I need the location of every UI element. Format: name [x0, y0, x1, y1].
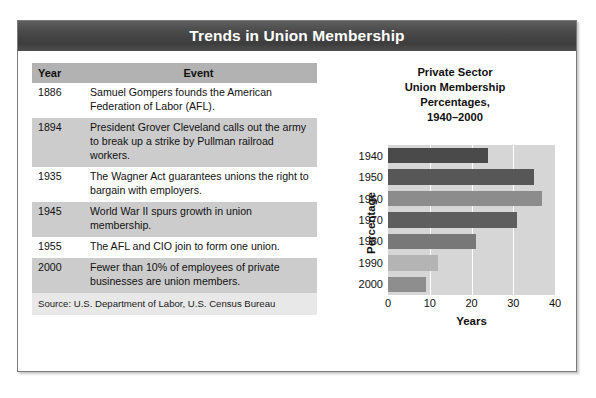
cell-year: 1935 — [32, 167, 84, 202]
bar-slot — [388, 188, 555, 209]
y-tick-label: 1980 — [350, 231, 386, 252]
chart-title-line: Percentages, — [336, 95, 574, 110]
y-tick-label: 1990 — [350, 252, 386, 273]
plot-area — [388, 145, 555, 295]
bar-slot — [388, 166, 555, 187]
chart-title-line: 1940–2000 — [336, 110, 574, 125]
chart-title: Private Sector Union Membership Percenta… — [336, 59, 574, 125]
bar-slot — [388, 274, 555, 295]
figure-body: Year Event 1886 Samuel Gompers founds th… — [18, 51, 576, 371]
table-header-row: Year Event — [32, 63, 317, 83]
cell-year: 1886 — [32, 83, 84, 118]
table-body: 1886 Samuel Gompers founds the American … — [32, 83, 317, 315]
y-tick-label: 1960 — [350, 188, 386, 209]
table-row: 1955 The AFL and CIO join to form one un… — [32, 237, 317, 258]
bar-series — [388, 145, 555, 295]
bar-2000 — [388, 277, 426, 292]
cell-event: The AFL and CIO join to form one union. — [84, 237, 317, 258]
table-row: 1894 President Grover Cleveland calls ou… — [32, 118, 317, 167]
table-row: 1886 Samuel Gompers founds the American … — [32, 83, 317, 118]
cell-event: Samuel Gompers founds the American Feder… — [84, 83, 317, 118]
y-tick-label: 2000 — [350, 274, 386, 295]
y-tick-label: 1940 — [350, 145, 386, 166]
bar-slot — [388, 145, 555, 166]
bar-1960 — [388, 191, 542, 206]
bar-1940 — [388, 148, 488, 163]
x-tick-label: 30 — [507, 297, 519, 309]
x-tick-label: 40 — [549, 297, 561, 309]
table-source-row: Source: U.S. Department of Labor, U.S. C… — [32, 293, 317, 316]
bar-slot — [388, 209, 555, 230]
bar-1980 — [388, 234, 476, 249]
chart-panel: Private Sector Union Membership Percenta… — [336, 59, 574, 365]
page-title: Trends in Union Membership — [189, 27, 404, 45]
table-row: 1945 World War II spurs growth in union … — [32, 202, 317, 237]
x-tick-label: 20 — [465, 297, 477, 309]
cell-year: 1955 — [32, 237, 84, 258]
column-header-event: Event — [84, 63, 317, 83]
x-axis-ticks: 010203040 — [388, 297, 555, 315]
table-row: 1935 The Wagner Act guarantees unions th… — [32, 167, 317, 202]
x-tick-label: 10 — [424, 297, 436, 309]
cell-event: President Grover Cleveland calls out the… — [84, 118, 317, 167]
figure-container: Trends in Union Membership Year Event 18… — [17, 20, 577, 372]
chart-title-line: Private Sector — [336, 65, 574, 80]
events-table: Year Event 1886 Samuel Gompers founds th… — [32, 63, 317, 315]
bar-slot — [388, 231, 555, 252]
cell-year: 1945 — [32, 202, 84, 237]
bar-1950 — [388, 169, 534, 184]
cell-event: Fewer than 10% of employees of private b… — [84, 258, 317, 293]
x-tick-label: 0 — [385, 297, 391, 309]
y-axis-ticks: 1940195019601970198019902000 — [350, 145, 386, 295]
cell-event: The Wagner Act guarantees unions the rig… — [84, 167, 317, 202]
source-note: Source: U.S. Department of Labor, U.S. C… — [32, 293, 317, 316]
y-tick-label: 1950 — [350, 166, 386, 187]
cell-event: World War II spurs growth in union membe… — [84, 202, 317, 237]
bar-slot — [388, 252, 555, 273]
cell-year: 1894 — [32, 118, 84, 167]
table-head: Year Event — [32, 63, 317, 83]
x-axis-label: Years — [388, 315, 555, 327]
bar-1990 — [388, 255, 438, 270]
figure-title-bar: Trends in Union Membership — [18, 21, 576, 51]
chart-plot-region: Percentage 1940195019601970198019902000 … — [336, 145, 574, 345]
chart-title-line: Union Membership — [336, 80, 574, 95]
y-tick-label: 1970 — [350, 209, 386, 230]
cell-year: 2000 — [32, 258, 84, 293]
column-header-year: Year — [32, 63, 84, 83]
bar-1970 — [388, 212, 517, 227]
table-row: 2000 Fewer than 10% of employees of priv… — [32, 258, 317, 293]
